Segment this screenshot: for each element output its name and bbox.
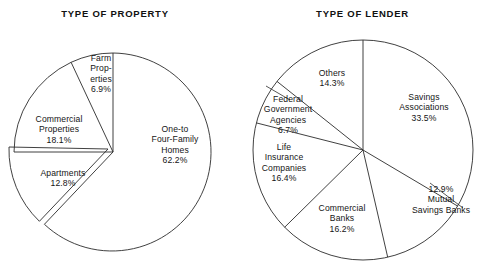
slice-label-federal-government-agencies: Federal Government Agencies 6.7% bbox=[252, 94, 324, 136]
slice-label-commercial-banks: Commercial Banks 16.2% bbox=[305, 203, 379, 234]
slice-label-life-insurance-companies: Life Insurance Companies 16.4% bbox=[250, 142, 318, 184]
slice-label-mutual-savings-banks: 12.9% Mutual Savings Banks bbox=[392, 184, 490, 215]
slice-label-apartments: Apartments 12.8% bbox=[18, 168, 108, 189]
slice-label-others: Others 14.3% bbox=[306, 68, 358, 89]
slice-label-commercial-properties: Commercial Properties 18.1% bbox=[12, 114, 106, 145]
pie-chart-figure: TYPE OF PROPERTY TYPE OF LENDER bbox=[0, 0, 499, 278]
spoke-apartments-end bbox=[9, 147, 108, 149]
slice-label-farm-properties: Farm Prop- erties 6.9% bbox=[84, 53, 118, 95]
slice-label-savings-associations: Savings Associations 33.5% bbox=[380, 92, 468, 123]
chart-title-type-of-lender: TYPE OF LENDER bbox=[255, 8, 470, 19]
slice-label-one-to-four-family-homes: One-to Four-Family Homes 62.2% bbox=[132, 124, 218, 166]
chart-title-type-of-property: TYPE OF PROPERTY bbox=[0, 8, 230, 19]
